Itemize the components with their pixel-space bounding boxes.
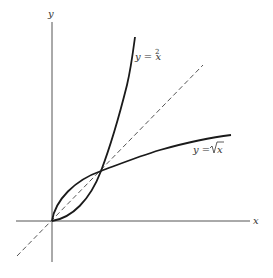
sqrt-label-base: y = <box>192 144 210 155</box>
parabola-curve <box>52 37 135 221</box>
y-axis-label: y <box>47 8 54 19</box>
parabola-label-exponent: 2 <box>155 48 159 56</box>
identity-line <box>17 65 203 256</box>
parabola-label: y = x 2 <box>134 48 161 62</box>
function-graph: x y y = x 2 y = x <box>0 0 273 278</box>
x-axis-label: x <box>253 215 259 226</box>
sqrt-label: y = x <box>192 142 224 155</box>
sqrt-label-radicand: x <box>217 144 223 155</box>
